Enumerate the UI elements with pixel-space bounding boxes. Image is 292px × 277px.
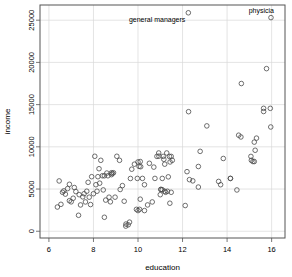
data-point xyxy=(95,189,100,194)
data-point xyxy=(185,169,190,174)
point-annotations: general managersphysicia xyxy=(129,7,274,24)
data-point xyxy=(254,136,259,141)
grid-lines xyxy=(40,5,285,238)
data-point xyxy=(128,176,133,181)
y-axis-title: income xyxy=(3,108,12,134)
data-point xyxy=(221,156,226,161)
plot-canvas: 6810121416 0500010000150002000025000 gen… xyxy=(0,0,292,277)
y-axis-ticks: 0500010000150002000025000 xyxy=(28,10,41,234)
data-point xyxy=(129,167,134,172)
y-tick-label: 10000 xyxy=(28,136,37,157)
data-point xyxy=(71,196,76,201)
data-point xyxy=(198,149,203,154)
data-point xyxy=(261,109,266,114)
scatterplot-figure: 6810121416 0500010000150002000025000 gen… xyxy=(0,0,292,277)
x-tick-label: 16 xyxy=(267,245,275,254)
data-point xyxy=(140,176,145,181)
data-point xyxy=(59,202,64,207)
data-point xyxy=(142,208,147,213)
data-point xyxy=(168,201,173,206)
x-tick-label: 14 xyxy=(223,245,231,254)
data-point xyxy=(86,180,91,185)
data-point xyxy=(196,185,201,190)
data-point xyxy=(76,213,81,218)
data-point xyxy=(186,10,191,15)
data-point xyxy=(186,109,191,114)
y-tick-label: 0 xyxy=(28,229,37,233)
data-point xyxy=(142,182,147,187)
data-point xyxy=(65,186,70,191)
data-point xyxy=(99,158,104,163)
data-point xyxy=(196,164,201,169)
data-point xyxy=(97,166,102,171)
data-point xyxy=(108,200,113,205)
data-point xyxy=(83,200,88,205)
data-point xyxy=(78,203,83,208)
y-tick-label: 15000 xyxy=(28,94,37,115)
data-point xyxy=(135,176,140,181)
x-tick-label: 8 xyxy=(91,245,95,254)
data-point xyxy=(88,202,93,207)
data-point xyxy=(253,148,258,153)
x-tick-label: 10 xyxy=(134,245,142,254)
data-point xyxy=(96,174,101,179)
data-point xyxy=(205,124,210,129)
data-point xyxy=(138,197,143,202)
data-point xyxy=(107,195,112,200)
data-point xyxy=(228,176,233,181)
data-point xyxy=(117,158,122,163)
data-points-layer xyxy=(55,10,273,228)
plot-frame xyxy=(40,5,285,238)
data-point xyxy=(150,200,155,205)
data-point xyxy=(183,203,188,208)
data-point xyxy=(162,157,167,162)
x-tick-label: 12 xyxy=(178,245,186,254)
data-point xyxy=(268,125,273,130)
data-point xyxy=(162,162,167,167)
y-tick-label: 20000 xyxy=(28,52,37,73)
data-point xyxy=(102,215,107,220)
point-label: general managers xyxy=(129,16,186,24)
data-point xyxy=(120,183,125,188)
data-point xyxy=(122,199,127,204)
data-point xyxy=(152,165,157,170)
data-point xyxy=(145,203,150,208)
data-point xyxy=(158,192,163,197)
point-label: physicia xyxy=(249,7,274,15)
y-tick-label: 25000 xyxy=(28,10,37,31)
data-point xyxy=(239,81,244,86)
y-tick-label: 5000 xyxy=(28,181,37,198)
data-point xyxy=(67,182,72,187)
data-point xyxy=(84,189,89,194)
data-point xyxy=(269,15,274,20)
x-tick-label: 6 xyxy=(47,245,51,254)
data-point xyxy=(153,176,158,181)
data-point xyxy=(166,175,171,180)
data-point xyxy=(101,188,106,193)
x-axis-title: education xyxy=(145,263,180,272)
data-point xyxy=(264,66,269,71)
data-point xyxy=(113,195,118,200)
data-point xyxy=(235,188,240,193)
data-point xyxy=(160,176,165,181)
data-point xyxy=(147,161,152,166)
data-point xyxy=(57,179,62,184)
data-point xyxy=(87,195,92,200)
x-axis-ticks: 6810121416 xyxy=(47,238,276,254)
